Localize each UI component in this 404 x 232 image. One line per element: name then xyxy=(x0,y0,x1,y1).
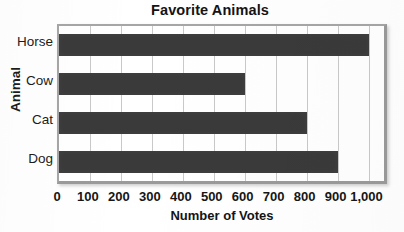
x-tick-label: 900 xyxy=(325,189,347,204)
category-axis-labels: HorseCowCatDog xyxy=(0,24,53,184)
bar-cat xyxy=(59,112,307,134)
category-label-horse: Horse xyxy=(1,34,53,49)
x-tick-label: 400 xyxy=(170,189,192,204)
x-tick-label: 300 xyxy=(139,189,161,204)
x-tick-label: 0 xyxy=(53,189,60,204)
bar-row xyxy=(59,34,384,56)
x-axis-tick-labels: 01002003004005006007008009001,000 xyxy=(57,189,397,205)
bar-dog xyxy=(59,151,338,173)
bar-row xyxy=(59,112,384,134)
category-label-cat: Cat xyxy=(1,112,53,127)
x-axis-title: Number of Votes xyxy=(57,208,387,223)
x-tick-label: 1,000 xyxy=(350,189,383,204)
bar-row xyxy=(59,73,384,95)
bar-horse xyxy=(59,34,369,56)
bar-cow xyxy=(59,73,245,95)
bar-chart-figure: Favorite Animals Animal HorseCowCatDog 0… xyxy=(0,0,404,232)
plot-frame xyxy=(57,24,387,184)
category-label-dog: Dog xyxy=(1,151,53,166)
x-tick-label: 500 xyxy=(201,189,223,204)
x-tick-label: 700 xyxy=(263,189,285,204)
bar-row xyxy=(59,151,384,173)
chart-title: Favorite Animals xyxy=(60,2,360,18)
x-tick-label: 600 xyxy=(232,189,254,204)
x-tick-label: 200 xyxy=(108,189,130,204)
x-tick-label: 800 xyxy=(294,189,316,204)
x-tick-label: 100 xyxy=(77,189,99,204)
plot-area xyxy=(59,26,384,181)
category-label-cow: Cow xyxy=(1,73,53,88)
